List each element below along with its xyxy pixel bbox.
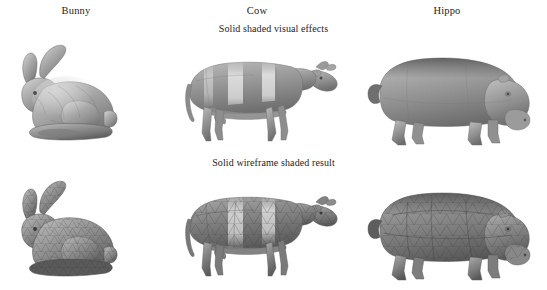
model-cell-cow-solid-shaded [176, 45, 342, 147]
hippo-solid-shaded-render [362, 46, 534, 146]
figure-panel: Bunny Cow Hippo Solid shaded visual effe… [0, 0, 547, 290]
stanford-bunny-solid-shaded-render [14, 36, 138, 144]
column-header-hippo: Hippo [371, 5, 523, 17]
model-cell-hippo-solid-shaded [362, 46, 534, 146]
cow-wireframe-shaded-render [176, 180, 342, 282]
column-header-bunny: Bunny [0, 5, 152, 17]
model-cell-bunny-solid-wireframe-shaded [14, 172, 138, 280]
stanford-bunny-wireframe-shaded-render [14, 172, 138, 280]
model-cell-bunny-solid-shaded [14, 36, 138, 144]
model-cell-hippo-solid-wireframe-shaded [362, 181, 534, 281]
cow-solid-shaded-render [176, 45, 342, 147]
row-caption-solid-wireframe: Solid wireframe shaded result [0, 157, 547, 169]
model-cell-cow-solid-wireframe-shaded [176, 180, 342, 282]
hippo-wireframe-shaded-render [362, 181, 534, 281]
row-caption-solid-shaded: Solid shaded visual effects [0, 23, 547, 35]
column-header-cow: Cow [181, 5, 333, 17]
